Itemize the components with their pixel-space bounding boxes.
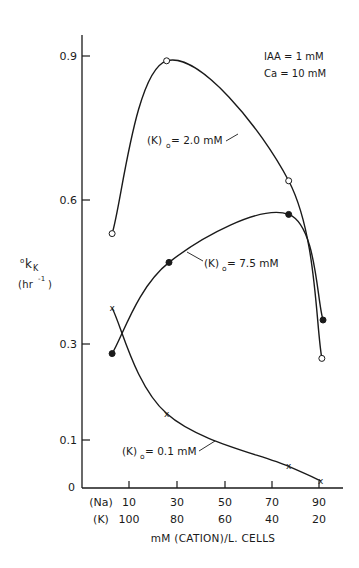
x-marker: x — [164, 409, 170, 419]
svg-text:= 7.5 mM: = 7.5 mM — [227, 257, 278, 269]
svg-text:(hr: (hr — [18, 279, 34, 290]
svg-text:90: 90 — [312, 496, 326, 509]
svg-text:70: 70 — [265, 496, 279, 509]
series-label-2mM: (K) o = 2.0 mM — [147, 134, 238, 150]
svg-text:(K): (K) — [93, 513, 109, 526]
svg-text:(K): (K) — [147, 134, 162, 146]
svg-text:10: 10 — [122, 496, 136, 509]
svg-text:k: k — [25, 257, 32, 271]
svg-text:): ) — [48, 279, 52, 290]
x-marker: x — [109, 303, 115, 313]
series-1 — [109, 211, 326, 356]
filled-circle-marker — [109, 351, 115, 357]
x-tick-labels-na: (Na) 10 30 50 70 90 — [89, 496, 326, 509]
open-circle-marker — [286, 178, 292, 184]
svg-text:50: 50 — [218, 496, 232, 509]
svg-text:(Na): (Na) — [89, 496, 113, 509]
svg-text:30: 30 — [170, 496, 184, 509]
svg-text:-1: -1 — [38, 275, 46, 283]
series-line — [112, 60, 322, 358]
y-ticks: 0.9 0.6 0.3 0.1 0 — [60, 50, 91, 494]
x-marker: x — [286, 461, 292, 471]
svg-text:o: o — [20, 257, 25, 265]
x-axis-title: mM (CATION)/L. CELLS — [151, 532, 276, 544]
svg-text:K: K — [33, 264, 39, 273]
y-tick-label: 0.6 — [60, 194, 78, 207]
y-tick-label: 0.9 — [60, 50, 78, 63]
series-layer: xxxx — [109, 58, 326, 486]
svg-text:20: 20 — [312, 513, 326, 526]
y-tick-label: 0.3 — [60, 338, 78, 351]
kinetics-line-chart: 0.9 0.6 0.3 0.1 0 o k K (hr -1 ) (Na) 10… — [0, 0, 359, 568]
annotation-ca: Ca = 10 mM — [264, 68, 326, 79]
svg-text:60: 60 — [218, 513, 232, 526]
filled-circle-marker — [166, 259, 172, 265]
svg-text:= 0.1 mM: = 0.1 mM — [145, 445, 196, 457]
svg-text:= 2.0 mM: = 2.0 mM — [171, 134, 222, 146]
series-0 — [109, 58, 325, 362]
filled-circle-marker — [320, 317, 326, 323]
open-circle-marker — [109, 231, 115, 237]
svg-text:(K): (K) — [204, 257, 219, 269]
x-marker: x — [318, 476, 324, 486]
series-label-7.5mM: (K) o = 7.5 mM — [187, 252, 278, 273]
y-axis-title: o k K (hr -1 ) — [18, 257, 52, 290]
y-tick-label: 0 — [68, 481, 75, 494]
filled-circle-marker — [286, 211, 292, 217]
x-ticks — [129, 481, 319, 488]
svg-text:40: 40 — [265, 513, 279, 526]
svg-text:80: 80 — [170, 513, 184, 526]
open-circle-marker — [164, 58, 170, 64]
svg-text:100: 100 — [119, 513, 140, 526]
svg-text:(K): (K) — [122, 445, 137, 457]
open-circle-marker — [319, 355, 325, 361]
series-label-0.1mM: (K) o = 0.1 mM — [122, 441, 215, 461]
annotation-iaa: IAA = 1 mM — [264, 51, 324, 62]
y-tick-label: 0.1 — [60, 434, 78, 447]
x-tick-labels-k: (K) 100 80 60 40 20 — [93, 513, 326, 526]
series-line — [112, 212, 323, 353]
